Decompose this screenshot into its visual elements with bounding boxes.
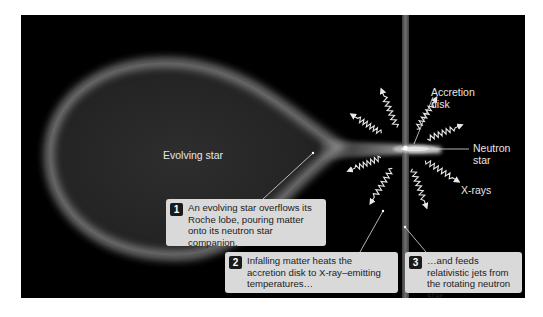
xray-arrow-icon bbox=[352, 115, 381, 133]
label-accretion-disk: Accretion disk bbox=[431, 86, 475, 110]
callout-2-number: 2 bbox=[229, 256, 242, 269]
callout-1: 1 An evolving star overflows its Roche l… bbox=[166, 199, 326, 246]
callout-1-text: An evolving star overflows its Roche lob… bbox=[188, 202, 321, 248]
callout-2: 2 Infalling matter heats the accretion d… bbox=[225, 252, 398, 293]
diagram-panel: Evolving star Accretion disk Neutron sta… bbox=[21, 15, 525, 298]
xray-arrow-icon bbox=[411, 169, 426, 207]
label-xrays: X-rays bbox=[461, 184, 491, 196]
callout-3-number: 3 bbox=[409, 256, 422, 269]
xray-arrow-icon bbox=[427, 126, 460, 141]
callout-2-text: Infalling matter heats the accretion dis… bbox=[247, 255, 393, 290]
callout-1-number: 1 bbox=[170, 203, 183, 216]
xray-arrow-icon bbox=[349, 156, 381, 170]
xray-arrow-icon bbox=[371, 168, 392, 202]
leader-dot-disk bbox=[382, 210, 384, 212]
callout-3: 3 …and feeds relativistic jets from the … bbox=[405, 252, 522, 293]
label-evolving-star: Evolving star bbox=[163, 149, 223, 161]
leader-line-callout-2 bbox=[360, 211, 383, 252]
callout-3-text: …and feeds relativistic jets from the ro… bbox=[427, 255, 517, 298]
xray-arrow-icon bbox=[425, 161, 457, 181]
xray-arrow-icon bbox=[382, 91, 399, 128]
label-neutron-star: Neutron star bbox=[473, 142, 510, 166]
leader-dot-jet bbox=[404, 226, 406, 228]
neutron-star bbox=[403, 146, 407, 150]
leader-dot-stream bbox=[312, 152, 314, 154]
